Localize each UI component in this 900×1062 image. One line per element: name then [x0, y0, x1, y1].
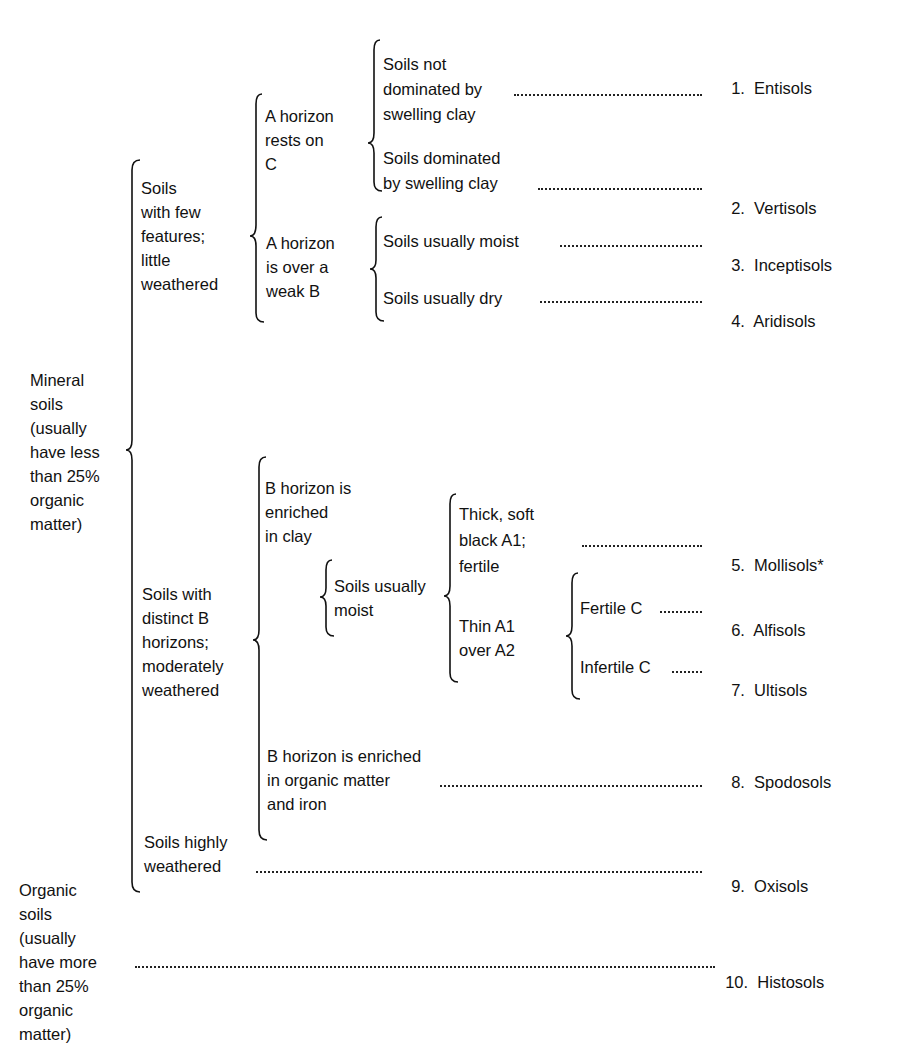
- node-organic-soils: Organic soils (usually have more than 25…: [19, 878, 97, 1046]
- brace-a-rests-on-c: [368, 40, 382, 191]
- brace-a-over-weak-b: [370, 217, 384, 321]
- node-usually-moist: Soils usually moist: [383, 229, 519, 253]
- leader-dots-8: [440, 783, 702, 787]
- leader-dots-7: [672, 669, 702, 673]
- node-few-features: Soils with few features; little weathere…: [141, 176, 218, 296]
- brace-mineral: [126, 160, 140, 892]
- result-4: 4. Aridisols: [722, 285, 816, 333]
- brace-usually-moist: [320, 560, 334, 636]
- result-num: 5.: [731, 556, 745, 574]
- node-moist-clay: Soils usually moist: [334, 574, 426, 622]
- node-not-swelling-1: Soils not: [383, 52, 446, 76]
- node-highly-weathered-2: weathered: [144, 854, 221, 878]
- node-not-swelling-2: dominated by: [383, 77, 482, 101]
- leader-dots-9: [256, 869, 702, 873]
- node-b-organic-3: and iron: [267, 792, 327, 816]
- node-b-clay: B horizon is enriched in clay: [265, 476, 351, 548]
- brace-few-features: [250, 94, 264, 322]
- result-num: 7.: [731, 681, 745, 699]
- result-name: Mollisols*: [754, 556, 824, 574]
- result-num: 6.: [731, 621, 745, 639]
- leader-dots-5: [582, 543, 702, 547]
- result-name: Spodosols: [754, 773, 831, 791]
- result-num: 4.: [731, 312, 745, 330]
- result-num: 2.: [731, 199, 745, 217]
- result-name: Aridisols: [753, 312, 815, 330]
- brace-fertile-infertile: [566, 573, 580, 699]
- leader-dots-4: [540, 299, 702, 303]
- result-num: 1.: [731, 79, 745, 97]
- result-name: Alfisols: [753, 621, 805, 639]
- result-name: Ultisols: [754, 681, 807, 699]
- node-b-organic-2: in organic matter: [267, 768, 390, 792]
- result-num: 8.: [731, 773, 745, 791]
- node-thick-1: Thick, soft: [459, 502, 534, 526]
- result-name: Histosols: [757, 973, 824, 991]
- result-6: 6. Alfisols: [722, 594, 805, 642]
- node-usually-dry: Soils usually dry: [383, 286, 502, 310]
- node-fertile-c: Fertile C: [580, 596, 642, 620]
- leader-dots-6: [660, 609, 702, 613]
- result-9: 9. Oxisols: [722, 850, 808, 898]
- result-name: Entisols: [754, 79, 812, 97]
- node-highly-weathered-1: Soils highly: [144, 830, 227, 854]
- result-3: 3. Inceptisols: [722, 229, 832, 277]
- result-name: Oxisols: [754, 877, 808, 895]
- result-num: 3.: [731, 256, 745, 274]
- node-swelling-2: by swelling clay: [383, 171, 498, 195]
- node-thick-3: fertile: [459, 554, 499, 578]
- brace-thick-thin: [444, 494, 458, 682]
- node-a-over-weak-b: A horizon is over a weak B: [266, 231, 335, 303]
- node-thin: Thin A1 over A2: [459, 614, 515, 662]
- result-8: 8. Spodosols: [722, 746, 831, 794]
- result-10: 10. Histosols: [716, 946, 824, 994]
- result-num: 10.: [725, 973, 748, 991]
- node-thick-2: black A1;: [459, 528, 526, 552]
- result-1: 1. Entisols: [722, 52, 812, 100]
- leader-dots-10: [135, 964, 715, 968]
- node-a-rests-on-c: A horizon rests on C: [265, 104, 334, 176]
- result-5: 5. Mollisols*: [722, 529, 824, 577]
- leader-dots-2: [538, 186, 702, 190]
- node-infertile-c: Infertile C: [580, 655, 651, 679]
- result-num: 9.: [731, 877, 745, 895]
- node-swelling-1: Soils dominated: [383, 146, 500, 170]
- result-name: Inceptisols: [754, 256, 832, 274]
- result-name: Vertisols: [754, 199, 816, 217]
- leader-dots-1: [514, 92, 702, 96]
- result-7: 7. Ultisols: [722, 654, 807, 702]
- node-mineral-soils: Mineral soils (usually have less than 25…: [30, 368, 100, 536]
- node-distinct-b: Soils with distinct B horizons; moderate…: [142, 582, 224, 702]
- node-b-organic-1: B horizon is enriched: [267, 744, 421, 768]
- node-not-swelling-3: swelling clay: [383, 102, 476, 126]
- leader-dots-3: [560, 243, 702, 247]
- result-2: 2. Vertisols: [722, 172, 816, 220]
